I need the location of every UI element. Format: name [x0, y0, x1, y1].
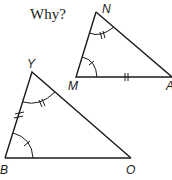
angle-n-arc — [90, 27, 115, 35]
angle-n-tick-1 — [100, 32, 102, 39]
angle-m-arc — [82, 57, 97, 77]
label-n: N — [102, 2, 111, 16]
side-na — [96, 12, 172, 77]
label-y: Y — [27, 57, 36, 71]
triangle-nma-edges — [76, 12, 172, 77]
angle-y-arc — [23, 92, 55, 103]
label-m: M — [68, 79, 78, 93]
triangle-nma: N M A — [68, 2, 172, 93]
label-a: A — [165, 79, 172, 93]
label-o: O — [126, 163, 135, 177]
angle-b-arc — [13, 133, 33, 158]
triangle-ybo: Y B O — [0, 57, 135, 177]
label-b: B — [0, 163, 8, 177]
why-prompt: Why? — [30, 6, 66, 22]
angle-n-tick-2 — [103, 31, 105, 38]
congruent-triangles-diagram: Why? N M A Y B O — [0, 0, 172, 180]
